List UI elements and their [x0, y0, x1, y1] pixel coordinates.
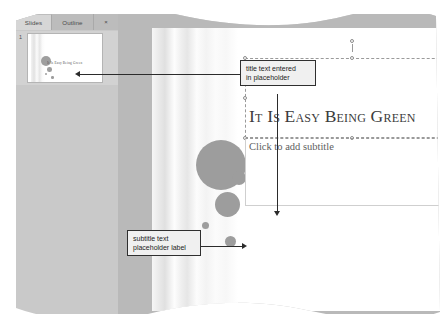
rotation-stem	[352, 44, 353, 52]
thumb-title-text: It Is Easy Being Green	[47, 61, 93, 65]
title-handle-mid-left[interactable]	[243, 96, 247, 100]
thumb-circle-tiny	[51, 76, 54, 79]
screenshot-root: menu Slides Outline × 1	[0, 0, 447, 332]
callout-title-text: title text entered in placeholder	[240, 60, 316, 86]
slides-panel: Slides Outline × 1	[16, 14, 118, 314]
leader-line-subtitle	[201, 246, 243, 247]
tab-slides-label: Slides	[25, 19, 42, 26]
slide-number-label: 1	[19, 34, 22, 40]
slide-thumbnail-item[interactable]: 1 It Is Easy Being Green	[16, 31, 118, 85]
leader-line-title-to-thumb	[80, 74, 240, 75]
close-panel-button[interactable]: ×	[94, 14, 118, 30]
panel-tab-bar: Slides Outline ×	[16, 14, 118, 30]
slide-circle-large	[215, 192, 240, 217]
subtitle-placeholder-text[interactable]: Click to add subtitle	[249, 141, 334, 152]
slide-thumbnail[interactable]: It Is Easy Being Green	[27, 33, 103, 83]
arrow-head-to-thumb	[75, 71, 80, 77]
leader-line-title-to-slide	[277, 94, 278, 212]
arrow-head-to-slide-title	[274, 211, 280, 216]
menu-fragment-label: menu	[176, 4, 191, 10]
tab-slides[interactable]: Slides	[16, 14, 52, 30]
slide-circle-medium	[232, 171, 246, 185]
rotation-handle[interactable]	[350, 39, 354, 43]
callout-subtitle-text: subtitle text placeholder label	[127, 230, 201, 256]
torn-paper-figure: menu Slides Outline × 1	[0, 0, 447, 332]
title-handle-top-mid[interactable]	[350, 56, 354, 60]
thumb-circle-medium	[47, 67, 52, 72]
tab-outline[interactable]: Outline	[52, 14, 94, 30]
slide-title-text[interactable]: It Is Easy Being Green	[249, 106, 416, 127]
thumb-circle-small	[45, 73, 47, 75]
tab-outline-label: Outline	[62, 19, 82, 26]
slide-editor-area: It Is Easy Being Green Click to add subt…	[118, 14, 440, 314]
powerpoint-window: menu Slides Outline × 1	[16, 14, 440, 314]
slide-circle-small	[202, 222, 209, 229]
arrow-head-to-subtitle	[242, 243, 247, 249]
close-icon: ×	[104, 19, 108, 25]
